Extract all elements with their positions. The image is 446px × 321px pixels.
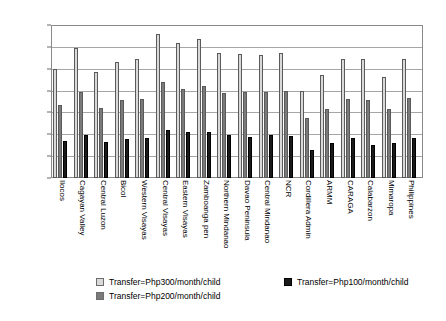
bar xyxy=(63,141,67,178)
x-axis-labels: IlocosCagayan ValleyCentral LuzonBicolWe… xyxy=(52,180,422,260)
bar-group xyxy=(73,26,94,178)
y-axis-tick-mark xyxy=(47,156,51,157)
bar xyxy=(259,55,263,178)
bar xyxy=(161,82,165,178)
bar xyxy=(186,132,190,178)
bar xyxy=(392,143,396,178)
bar-group xyxy=(196,26,217,178)
bar-group xyxy=(340,26,361,178)
bar-group xyxy=(93,26,114,178)
bar xyxy=(407,98,411,178)
bar xyxy=(387,109,391,178)
x-axis-tick-label: Bicol xyxy=(119,180,127,197)
bar xyxy=(202,86,206,178)
bar xyxy=(79,92,83,178)
bar xyxy=(366,100,370,178)
bar xyxy=(269,135,273,178)
x-axis-tick-label: Northern Mindanao xyxy=(222,180,230,248)
legend-swatch-icon xyxy=(96,292,104,300)
y-axis-tick-mark xyxy=(47,25,51,26)
legend-swatch-icon xyxy=(284,278,292,286)
bar xyxy=(279,53,283,178)
bar xyxy=(99,108,103,178)
bar xyxy=(104,142,108,178)
bar-group xyxy=(52,26,73,178)
legend-item-php100: Transfer=Php100/month/child xyxy=(284,277,408,287)
bar-group xyxy=(299,26,320,178)
bar-group xyxy=(258,26,279,178)
bar xyxy=(181,89,185,178)
bar xyxy=(140,99,144,178)
y-axis-tick-mark xyxy=(47,178,51,179)
y-axis-tick-mark xyxy=(47,90,51,91)
x-axis-tick-label: ARMM xyxy=(325,180,333,204)
legend-label: Transfer=Php100/month/child xyxy=(297,277,408,287)
x-axis-tick-label: Ilocos xyxy=(58,180,66,201)
bar xyxy=(305,118,309,178)
bar xyxy=(320,75,324,178)
bar-group xyxy=(360,26,381,178)
bar xyxy=(330,143,334,178)
bar xyxy=(145,138,149,178)
x-axis-tick-label: Calabarzon xyxy=(366,180,374,221)
bar-group xyxy=(114,26,135,178)
bar xyxy=(264,92,268,178)
bar xyxy=(382,77,386,178)
bar xyxy=(197,39,201,178)
bar xyxy=(74,48,78,178)
bar xyxy=(341,59,345,178)
bar xyxy=(227,135,231,178)
bars-layer xyxy=(52,26,422,178)
bar xyxy=(217,53,221,178)
bar xyxy=(371,145,375,178)
x-axis-tick-label: Philippines xyxy=(407,180,415,219)
bar-group xyxy=(401,26,422,178)
x-axis-tick-label: Central Mindanao xyxy=(263,180,271,243)
x-axis-tick-label: Central Visayas xyxy=(161,180,169,236)
x-axis-tick-label: Cagayan Valley xyxy=(78,180,86,235)
legend-label: Transfer=Php300/month/child xyxy=(109,277,220,287)
x-axis-tick-label: Zamboanga pen xyxy=(202,180,210,238)
x-axis-tick-label: CARAGA xyxy=(346,180,354,214)
bar xyxy=(243,92,247,178)
bar-group xyxy=(237,26,258,178)
bar-chart: 0.00%5.00%10.00%15.00%20.00%25.00%30.00%… xyxy=(0,0,446,321)
x-axis-tick-label: Cordillera Admin xyxy=(304,180,312,239)
legend-item-php300: Transfer=Php300/month/child xyxy=(96,277,284,287)
y-axis-tick-mark xyxy=(47,134,51,135)
bar-group xyxy=(134,26,155,178)
y-axis-tick-mark xyxy=(47,68,51,69)
bar xyxy=(58,105,62,178)
bar-group xyxy=(216,26,237,178)
x-axis-tick-label: Davao Peninsula xyxy=(243,180,251,240)
bar xyxy=(84,135,88,178)
y-axis-tick-mark xyxy=(47,46,51,47)
bar xyxy=(284,91,288,178)
bar-group xyxy=(381,26,402,178)
bar-group xyxy=(175,26,196,178)
x-axis-tick-label: Eastern Visayas xyxy=(181,180,189,238)
x-axis-tick-label: Western Visayas xyxy=(140,180,148,240)
bar xyxy=(300,91,304,178)
bar xyxy=(135,59,139,178)
bar xyxy=(361,59,365,178)
bar xyxy=(346,99,350,178)
bar-group xyxy=(319,26,340,178)
bar xyxy=(351,138,355,178)
bar xyxy=(166,130,170,178)
bar xyxy=(120,100,124,178)
x-axis-tick-label: Mimaropa xyxy=(387,180,395,216)
bar xyxy=(94,72,98,178)
bar xyxy=(222,93,226,178)
bar xyxy=(310,150,314,178)
legend: Transfer=Php300/month/child Transfer=Php… xyxy=(96,277,412,305)
bar xyxy=(402,59,406,178)
legend-label: Transfer=Php200/month/child xyxy=(109,291,220,301)
bar-group xyxy=(278,26,299,178)
x-axis-tick-label: Central Luzon xyxy=(99,180,107,230)
y-axis-tick-mark xyxy=(47,112,51,113)
x-axis-tick-label: NCR xyxy=(284,180,292,197)
bar xyxy=(176,43,180,178)
bar xyxy=(289,136,293,178)
bar xyxy=(125,139,129,178)
